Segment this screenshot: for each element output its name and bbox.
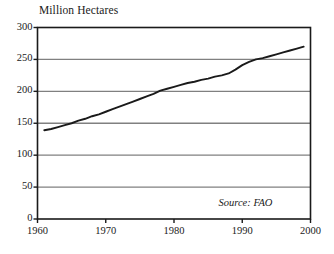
x-tick-label: 2000 [291,225,331,236]
x-tick-label: 1960 [18,225,58,236]
source-annotation: Source: FAO [219,197,273,208]
y-tick-label: 200 [5,84,33,95]
y-tick-label: 0 [5,212,33,223]
y-tick-label: 50 [5,180,33,191]
x-tick-label: 1990 [222,225,262,236]
gridline-group [38,59,311,187]
y-tick-label: 250 [5,52,33,63]
y-tick-label: 300 [5,21,33,32]
plot-area [0,0,334,254]
x-tick-label: 1980 [154,225,194,236]
chart-figure: Million Hectares 300250200150100500 1960… [0,0,334,254]
x-tick-label: 1970 [86,225,126,236]
y-tick-label: 150 [5,116,33,127]
y-tick-label: 100 [5,148,33,159]
